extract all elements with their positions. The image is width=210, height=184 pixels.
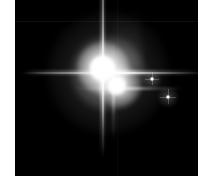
nix-point-source <box>150 77 154 81</box>
image-viewer <box>0 0 210 184</box>
hydra-point-source <box>166 95 170 99</box>
inner-halo <box>71 36 145 110</box>
charon-spike-horizontal <box>73 87 183 90</box>
pluto-spike-horizontal <box>23 70 198 75</box>
nix-halo <box>143 70 161 88</box>
pluto-spike-vertical-core <box>102 0 104 159</box>
pluto-spike-vertical <box>100 0 105 156</box>
charon-spike-vertical <box>112 42 115 142</box>
nix-spike-vertical <box>152 72 153 85</box>
nebulous-wisp <box>115 8 141 74</box>
mosaic-seam-vertical <box>117 0 118 176</box>
hydra-halo <box>158 87 178 107</box>
astronomical-image-frame <box>15 0 198 176</box>
nix-spike-horizontal <box>145 79 159 80</box>
outer-halo <box>47 12 169 134</box>
background-noise <box>15 0 198 176</box>
charon-core <box>107 76 126 95</box>
pluto-glow <box>77 42 129 94</box>
hydra-spike-horizontal <box>160 97 176 98</box>
charon-glow <box>98 65 140 107</box>
hydra-spike-vertical <box>168 89 169 104</box>
mosaic-seam-horizontal <box>15 21 198 22</box>
pluto-core <box>90 56 115 81</box>
pluto-spike-horizontal-core <box>21 72 198 74</box>
